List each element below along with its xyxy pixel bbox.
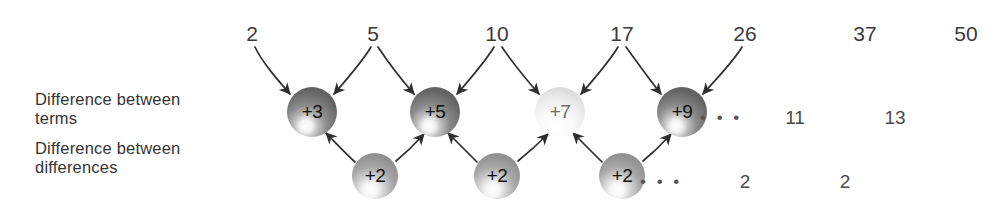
term-value-3: 10 xyxy=(485,22,508,46)
term-value-4: 17 xyxy=(610,22,633,46)
sphere-plus5 xyxy=(410,87,460,137)
row-label-difference-between-terms: Difference between terms xyxy=(35,90,180,128)
term-value-6: 37 xyxy=(853,22,876,46)
term-value-5: 26 xyxy=(733,22,756,46)
term-value-1: 2 xyxy=(246,22,258,46)
second-difference-tail-1: 2 xyxy=(740,171,751,193)
sphere-plus3 xyxy=(287,87,337,137)
sphere-plus2-a xyxy=(352,153,398,199)
arrow-5-to-plus5 xyxy=(378,47,414,94)
first-difference-tail-1: 11 xyxy=(785,107,805,129)
arrow-plus7-to-plus2-b xyxy=(518,134,548,161)
arrow-plus5-to-plus2-a xyxy=(396,134,424,161)
arrow-plus9-to-plus2-c xyxy=(643,134,671,161)
arrow-plus7-to-plus2-c xyxy=(573,133,602,162)
sphere-plus7 xyxy=(535,87,585,137)
row-label-difference-between-differences: Difference between differences xyxy=(35,139,180,177)
second-difference-tail-2: 2 xyxy=(840,171,851,193)
term-value-2: 5 xyxy=(367,22,379,46)
arrow-17-to-plus7 xyxy=(581,47,618,94)
arrow-plus3-to-plus2-a xyxy=(326,133,355,162)
arrow-plus5-to-plus2-b xyxy=(448,133,477,162)
spheres-first-differences xyxy=(287,87,707,137)
sphere-plus2-c xyxy=(599,153,645,199)
arrows-terms-to-first-differences xyxy=(255,47,742,94)
ellipsis-second-differences: • • • xyxy=(640,172,682,192)
arrow-17-to-plus9 xyxy=(626,47,661,94)
arrow-10-to-plus5 xyxy=(457,47,494,94)
ellipsis-first-differences: • • • xyxy=(700,108,742,128)
term-value-7: 50 xyxy=(954,22,977,46)
arrow-26-to-plus9 xyxy=(703,47,742,94)
sphere-plus2-b xyxy=(474,153,520,199)
arrow-10-to-plus7 xyxy=(502,47,539,94)
first-difference-tail-2: 13 xyxy=(884,107,905,129)
diagram-canvas: Difference between terms Difference betw… xyxy=(0,0,997,219)
arrow-2-to-plus3 xyxy=(255,47,290,94)
arrow-5-to-plus3 xyxy=(334,47,371,94)
